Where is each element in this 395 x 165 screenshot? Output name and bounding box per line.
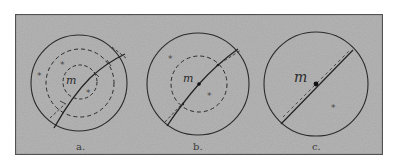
panel-b-caption: b. (193, 141, 203, 152)
panel-b-mass-point (197, 82, 201, 86)
panel-a-star-marker: * (37, 71, 42, 81)
panel-b-crossing-point (217, 64, 219, 66)
panel-a-star-marker: * (86, 88, 91, 98)
panel-b-star-marker: * (168, 54, 173, 64)
panel-a-caption: a. (76, 141, 85, 152)
three-panel-diagram: m * * * a. m * * b. m * c. (0, 0, 395, 165)
panel-c-caption: c. (312, 141, 321, 152)
panel-c-mass-point (314, 82, 319, 87)
panel-b-crossing-point (182, 103, 184, 105)
panel-a-mass-label: m (66, 74, 76, 87)
panel-a-star-marker: * (60, 60, 65, 70)
panel-c-mass-label: m (294, 69, 307, 85)
panel-b-mass-label: m (183, 72, 193, 85)
panel-c-star-marker: * (331, 103, 336, 113)
panel-b-star-marker: * (207, 91, 212, 101)
